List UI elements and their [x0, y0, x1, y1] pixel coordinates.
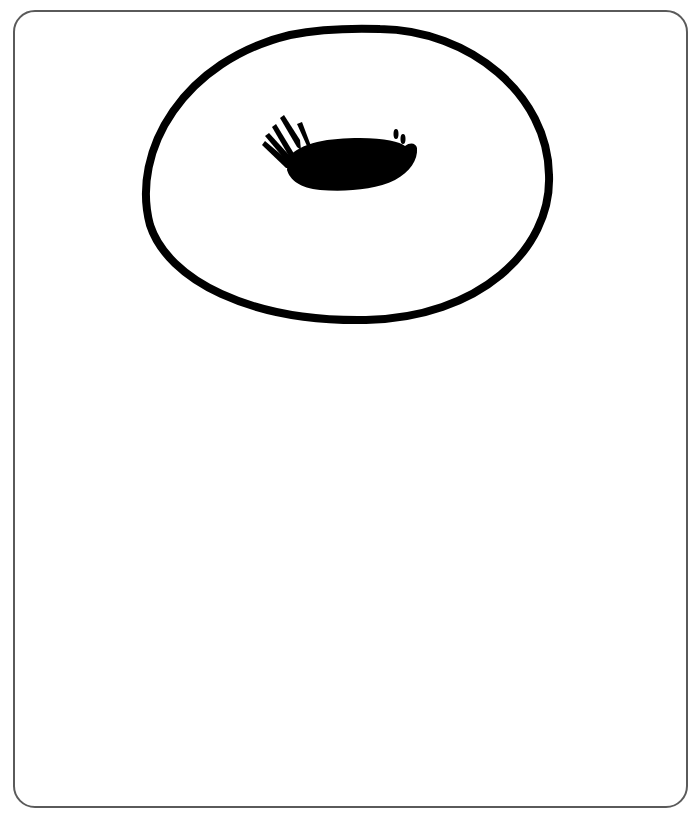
pictograph-illustration — [0, 0, 695, 813]
creature-icon — [262, 115, 417, 191]
